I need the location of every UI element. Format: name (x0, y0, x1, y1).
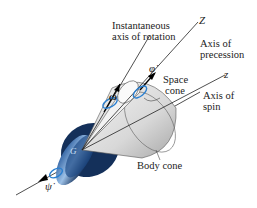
label-instantaneous-axis-2: axis of rotation (112, 31, 176, 42)
label-omega: ω (109, 90, 117, 102)
label-G: G (70, 146, 77, 156)
label-axis-precession-1: Axis of (200, 38, 231, 49)
label-space-cone-1: Space (163, 74, 188, 85)
label-axis-Z: Z (199, 14, 205, 26)
label-space-cone-2: cone (165, 85, 185, 96)
label-axis-z: z (224, 68, 228, 80)
label-axis-precession-2: precession (200, 49, 244, 60)
label-axis-spin-1: Axis of (203, 90, 234, 101)
label-instantaneous-axis-1: Instantaneous (112, 20, 170, 31)
label-psi-dot: ψ̇ (45, 180, 52, 192)
label-phi-dot: φ̇ (149, 62, 155, 74)
label-axis-spin-2: spin (203, 101, 221, 112)
label-body-cone: Body cone (137, 160, 182, 171)
